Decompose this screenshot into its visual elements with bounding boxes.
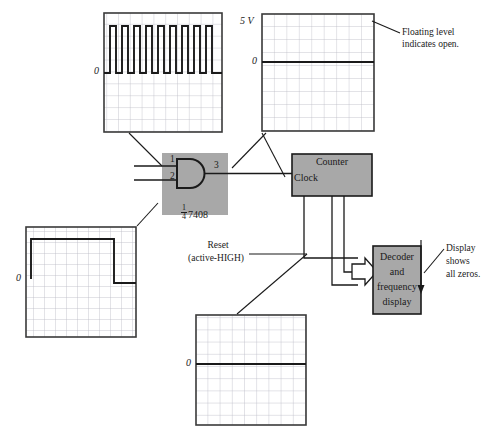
gate-output-scope-zero-label: 0: [186, 357, 191, 369]
counter-bus-to-decoder: [304, 196, 358, 285]
reset-pulse-scope: [26, 227, 136, 337]
chip-pin-3-label: 3: [214, 160, 219, 171]
floating-level-scope: [262, 14, 374, 131]
bus-line-1: [304, 196, 358, 258]
decoder-line-3: frequency: [371, 281, 423, 293]
bus-line-3: [344, 196, 358, 272]
reset-scope-zero-label: 0: [16, 272, 21, 284]
decoder-line-4: display: [373, 296, 421, 308]
floating-scope-zero-label: 0: [252, 55, 257, 67]
chip-fraction: 14: [181, 204, 187, 221]
gate-output-probe-lead: [262, 133, 285, 177]
circuit-diagram-svg: [0, 0, 500, 444]
clock-scope-zero-label: 0: [94, 65, 99, 77]
chip-pin-1-label: 1: [170, 154, 175, 165]
decoder-line-1: Decoder: [373, 251, 421, 263]
decoder-line-2: and: [373, 266, 421, 278]
display-zeros-note-line-2: shows: [446, 256, 470, 267]
floating-scope-probe-lead: [232, 133, 266, 168]
chip-pin-2-label: 2: [170, 171, 175, 182]
clock-input-scope: [104, 13, 222, 132]
gate-output-scope: [196, 315, 306, 425]
figure-canvas: 0 5 V 0 0 0 1 2 3 147408 Counter Clock D…: [0, 0, 500, 444]
floating-note-pointer-lead: [372, 21, 400, 33]
display-zeros-note-line-1: Display: [446, 243, 476, 254]
chip-part-number: 7408: [188, 209, 208, 220]
floating-level-note-line-2: indicates open.: [402, 39, 459, 50]
chip-fraction-denominator: 4: [181, 213, 187, 221]
counter-clock-port-label: Clock: [294, 172, 318, 184]
clock-scope-probe-lead: [129, 133, 162, 166]
display-zeros-note-line-3: all zeros.: [446, 269, 480, 280]
reset-label-line-2: (active-HIGH): [180, 253, 252, 264]
floating-scope-top-label: 5 V: [240, 15, 254, 27]
counter-title: Counter: [292, 156, 372, 168]
floating-level-note-line-1: Floating level: [402, 27, 455, 38]
chip-part-label: 147408: [171, 192, 208, 233]
reset-label-line-1: Reset: [186, 240, 250, 251]
reset-scope-probe-lead: [137, 203, 158, 226]
